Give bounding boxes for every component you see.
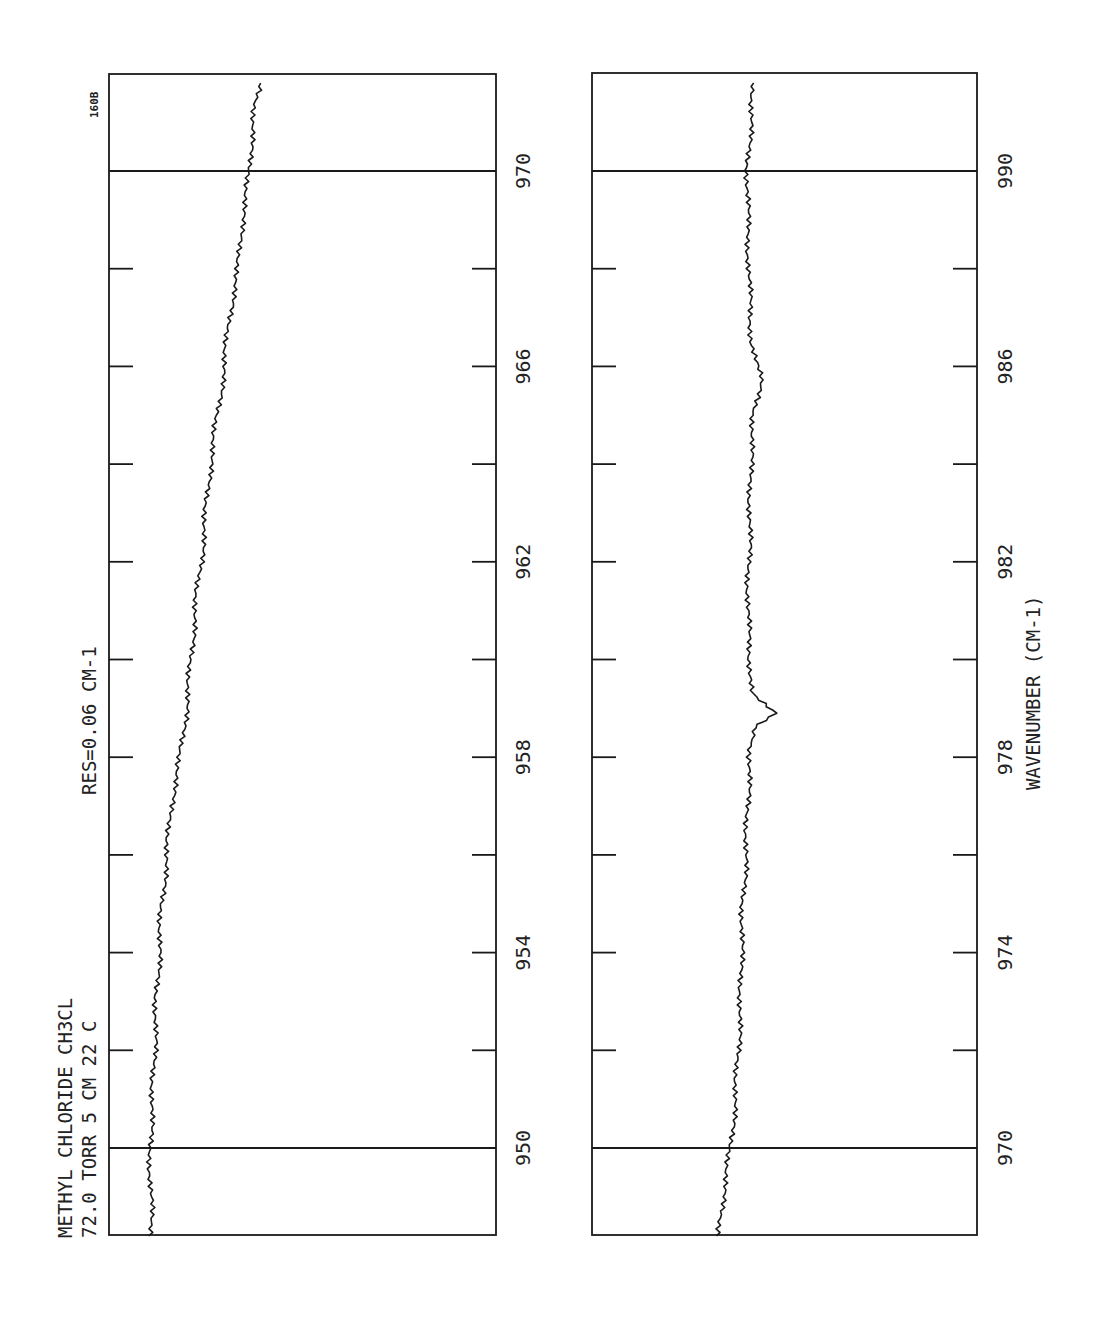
tick-label: 970 — [511, 153, 535, 189]
panel-left: 950954958962966970 — [109, 74, 535, 1236]
tick-label: 954 — [511, 935, 535, 971]
panel-right: 970974978982986990 — [592, 73, 1017, 1236]
panel-left-spectrum-trace — [147, 83, 262, 1236]
annotation-line2: 72.0 TORR 5 CM 22 C — [78, 1021, 100, 1238]
panel-left-ticks — [109, 171, 496, 1148]
x-axis-title: WAVENUMBER (CM-1) — [1022, 596, 1044, 790]
tick-label: 978 — [993, 739, 1017, 775]
tick-label: 962 — [511, 544, 535, 580]
tick-label: 974 — [993, 935, 1017, 971]
tick-label: 966 — [511, 348, 535, 384]
panel-left-frame — [109, 74, 496, 1235]
panel-right-frame — [592, 73, 977, 1235]
panel-right-tick-labels: 970974978982986990 — [993, 153, 1017, 1166]
tick-label: 990 — [993, 153, 1017, 189]
panel-left-tick-labels: 950954958962966970 — [511, 153, 535, 1166]
tick-label: 982 — [993, 544, 1017, 580]
panel-right-ticks — [592, 171, 977, 1148]
annotation-resolution: RES=0.06 CM-1 — [78, 646, 100, 795]
spectrum-figure: 950954958962966970 970974978982986990 16… — [0, 0, 1097, 1323]
figure-id-label: 160B — [88, 91, 101, 118]
panel-right-spectrum-trace — [716, 83, 777, 1236]
annotation-line1: METHYL CHLORIDE CH3CL — [54, 998, 76, 1238]
tick-label: 950 — [511, 1130, 535, 1166]
tick-label: 986 — [993, 348, 1017, 384]
tick-label: 958 — [511, 739, 535, 775]
tick-label: 970 — [993, 1130, 1017, 1166]
